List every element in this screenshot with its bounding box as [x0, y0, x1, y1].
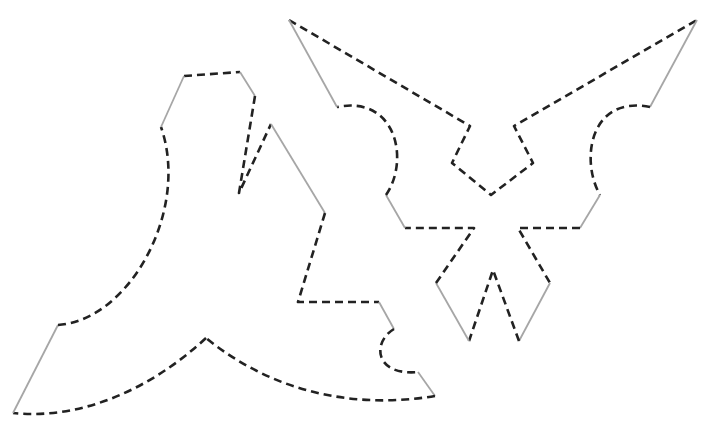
right-cut-center-notch [469, 270, 519, 341]
left-fold-right-diagonal [271, 124, 325, 213]
right-cut-top-v [289, 20, 697, 195]
right-fold-bottom-left [436, 283, 469, 341]
left-cut-notch [239, 96, 271, 193]
left-cut-bottom-left-curve [13, 338, 206, 414]
left-cut-inner-curve [58, 127, 168, 325]
right-fold-top-right [650, 20, 697, 107]
right-cut-lower-left [405, 228, 474, 283]
right-cut-right-arc [591, 106, 650, 195]
left-cut-bottom-right-curve [206, 338, 435, 400]
right-fold-left-lower [386, 195, 405, 228]
left-fold-top-left [161, 76, 184, 127]
left-fold-tab-bottom [418, 372, 435, 396]
right-fold-bottom-right [519, 283, 550, 341]
right-fold-right-lower [580, 195, 600, 228]
left-cut-step [298, 213, 379, 302]
left-fold-top-right [240, 72, 255, 96]
diagram-canvas [0, 0, 714, 438]
left-cut-top-edge [184, 72, 240, 76]
left-fold-tab-top [379, 302, 394, 329]
right-cut-left-arc [337, 106, 397, 195]
right-cut-lower-right [518, 228, 580, 283]
left-cut-tab-arc [380, 329, 418, 372]
left-template [13, 72, 435, 414]
left-fold-left-edge [13, 325, 58, 413]
right-template [289, 20, 697, 341]
